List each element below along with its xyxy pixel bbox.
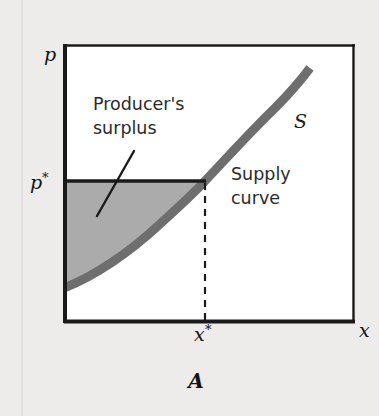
x-tick-star: * [205,322,212,337]
figure-caption: A [186,369,204,393]
producer-surplus-label-line2: surplus [93,118,157,138]
supply-curve-label-line1: Supply [231,164,291,184]
x-tick-base: x [194,323,205,345]
supply-curve-label-line2: curve [231,188,280,208]
y-axis-label: p [44,43,56,65]
producer-surplus-label-line1: Producer's [93,94,184,114]
supply-curve-symbol-label: S [294,110,307,132]
y-tick-base: p [30,171,42,193]
supply-curve-figure: p x p * x * S Producer's surplus Supply … [0,0,379,416]
y-tick-star: * [42,170,49,185]
x-axis-label: x [359,319,370,341]
